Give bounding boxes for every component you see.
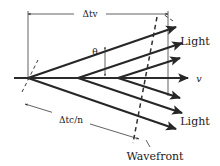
- wavefront-label-group: Wavefront: [126, 140, 184, 163]
- light-labels-group: Light Light: [180, 35, 210, 128]
- light-label-upper: Light: [180, 35, 210, 48]
- top-dimension-group: Δtv: [28, 7, 168, 96]
- wavefront-dashed-main: [133, 17, 157, 143]
- wavefront-label: Wavefront: [126, 150, 184, 163]
- wavefront-leader-line: [146, 140, 150, 147]
- top-dimension-label: Δtv: [82, 9, 98, 19]
- diagram-canvas: Δtv v θ: [0, 0, 220, 166]
- velocity-label: v: [196, 73, 202, 84]
- ray-lower-2: [78, 78, 182, 113]
- cherenkov-diagram: Δtv v θ: [0, 0, 220, 166]
- angle-label: θ: [92, 47, 97, 57]
- light-label-lower: Light: [180, 115, 210, 128]
- bottom-dimension-label: Δtc/n: [59, 115, 83, 125]
